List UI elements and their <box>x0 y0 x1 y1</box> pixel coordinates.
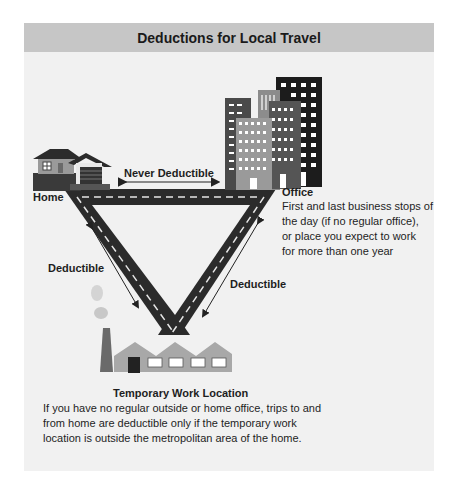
node-label-office: Office <box>282 185 313 199</box>
edge-label-home-temp: Deductible <box>48 261 104 275</box>
office-buildings-icon <box>225 77 322 190</box>
node-label-home: Home <box>33 190 64 204</box>
house-icon <box>33 149 112 191</box>
node-label-temporary-work-location: Temporary Work Location <box>113 386 248 400</box>
edge-label-office-temp: Deductible <box>230 277 286 291</box>
edge-label-never-deductible: Never Deductible <box>124 166 214 180</box>
